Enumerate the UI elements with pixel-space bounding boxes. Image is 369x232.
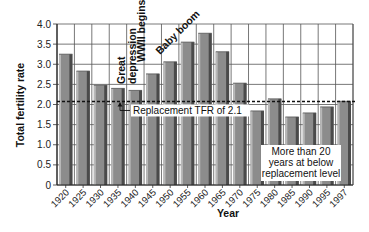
x-tick-label: 1965 [205,187,228,210]
annotation-wwii-begins: WWII begins [135,0,147,62]
bar-highlight [163,62,165,185]
x-axis-label: Year [217,207,239,219]
bar-highlight [94,85,96,185]
annotation-below-replacement: More than 20years at belowreplacement le… [262,146,340,179]
x-tick-label: 1950 [153,187,176,210]
x-tick-label: 1960 [188,187,211,210]
x-tick-label: 1930 [83,187,106,210]
bar-highlight [111,88,113,185]
annotation-baby-boom: Baby boom [153,8,202,57]
bar-highlight [76,71,78,185]
fertility-bar-chart: 00.51.01.52.02.53.03.54.0 19201925193019… [0,0,369,232]
bar-shadow [69,54,72,185]
x-tick-label: 1955 [170,187,193,210]
bar-highlight [233,83,235,185]
x-tick-label: 1980 [257,187,280,210]
bar-shadow [87,71,90,185]
y-tick-label: 0.5 [37,159,51,170]
x-tick-label: 1970 [223,187,246,210]
x-tick-label: 1997 [327,187,350,210]
replacement-label: Replacement TFR of 2.1 [133,105,242,116]
bar-shadow [156,74,159,185]
bar-shadow [244,83,247,185]
bar-shadow [122,88,125,185]
x-axis-ticks: 1920192519301935194019451950195519601965… [48,185,349,209]
bar-shadow [104,85,107,185]
x-tick-label: 1995 [310,187,333,210]
y-tick-label: 3.5 [37,39,51,50]
bar-shadow [174,62,177,185]
x-tick-label: 1920 [48,187,71,210]
x-tick-label: 1925 [66,187,89,210]
x-tick-label: 1945 [135,187,158,210]
bar-shadow [348,101,351,185]
y-tick-label: 3.0 [37,59,51,70]
y-tick-label: 4.0 [37,19,51,30]
y-axis-ticks: 00.51.01.52.02.53.03.54.0 [37,19,57,191]
y-axis-label: Total fertility rate [14,63,26,148]
bar-highlight [129,90,131,185]
bar-highlight [59,54,61,185]
bar-shadow [226,52,229,185]
y-tick-label: 0 [45,180,51,191]
x-tick-label: 1985 [275,187,298,210]
x-tick-label: 1940 [118,187,141,210]
y-tick-label: 2.0 [37,99,51,110]
bar-highlight [146,74,148,185]
y-tick-label: 2.5 [37,79,51,90]
x-tick-label: 1975 [240,187,263,210]
bar-highlight [216,52,218,185]
bar-highlight [251,111,253,185]
y-tick-label: 1.5 [37,119,51,130]
x-tick-label: 1990 [292,187,315,210]
y-tick-label: 1.0 [37,139,51,150]
x-tick-label: 1935 [101,187,124,210]
